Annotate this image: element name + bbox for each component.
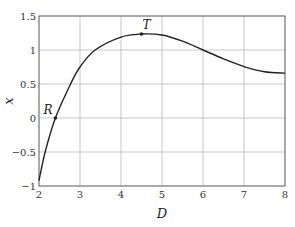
y-tick-label: 0.5	[20, 79, 36, 90]
x-tick-label: 6	[200, 189, 206, 200]
x-tick-label: 3	[77, 189, 83, 200]
x-tick-label: 8	[282, 189, 288, 200]
point-marker-r	[54, 116, 58, 120]
point-annotations: RT	[42, 18, 151, 120]
x-axis-label: D	[156, 206, 168, 221]
x-tick-label: 5	[159, 189, 165, 200]
chart: 2345678 −1−0.500.511.5 RT D x	[0, 0, 295, 227]
y-tick-label: −1	[21, 181, 36, 192]
y-tick-label: 1	[30, 45, 36, 56]
y-axis-label: x	[1, 97, 16, 105]
y-tick-label: −0.5	[12, 147, 36, 158]
x-tick-label: 4	[118, 189, 124, 200]
point-label-r: R	[42, 103, 52, 117]
x-tick-label: 2	[36, 189, 42, 200]
x-tick-label: 7	[241, 189, 247, 200]
y-tick-label: 0	[30, 113, 36, 124]
point-label-t: T	[143, 18, 152, 32]
grid-lines	[39, 16, 285, 186]
y-tick-label: 1.5	[20, 11, 36, 22]
point-marker-t	[140, 32, 144, 36]
x-tick-labels: 2345678	[36, 189, 288, 200]
